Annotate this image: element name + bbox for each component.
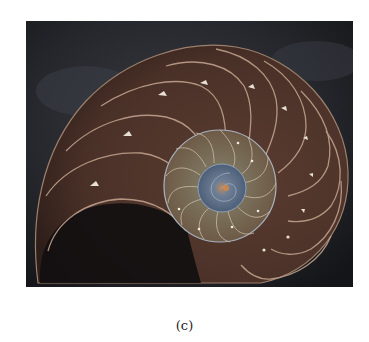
nautilus-shell-photo — [26, 21, 353, 287]
nautilus-shell-illustration — [26, 21, 353, 287]
figure-caption: (c) — [0, 318, 369, 333]
